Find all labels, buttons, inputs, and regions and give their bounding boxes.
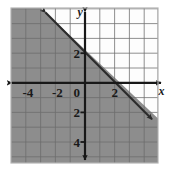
coordinate-graph-figure: -4 -2 0 2 2 2 4 y x <box>0 0 172 176</box>
x-tick-label-neg4: -4 <box>23 85 34 100</box>
y-tick-label-pos2: 2 <box>74 46 81 61</box>
y-axis-label: y <box>76 5 84 19</box>
x-tick-label-2: 2 <box>112 85 119 100</box>
y-tick-label-neg2: 2 <box>74 105 81 120</box>
x-tick-label-0: 0 <box>74 85 81 100</box>
x-axis-label: x <box>158 84 165 98</box>
graph-canvas: -4 -2 0 2 2 2 4 y x <box>0 0 172 176</box>
screenshot-root: -4 -2 0 2 2 2 4 y x <box>0 0 172 176</box>
x-tick-label-neg2: -2 <box>52 85 63 100</box>
y-tick-label-neg4: 4 <box>74 135 81 150</box>
